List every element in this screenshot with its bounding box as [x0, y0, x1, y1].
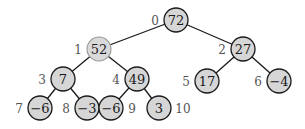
heap-node-5: 175	[182, 69, 219, 93]
heap-node-3: 73	[38, 67, 75, 91]
heap-node-10: 310	[147, 96, 191, 120]
node-value: −3	[77, 101, 96, 116]
node-index-label: 6	[254, 75, 262, 89]
heap-diagram: 72052127273494175−46−67−38−69310	[0, 0, 305, 129]
node-value: 7	[59, 72, 67, 87]
node-value: 72	[168, 13, 185, 28]
node-index-label: 0	[151, 14, 159, 28]
heap-node-4: 494	[112, 67, 149, 91]
node-value: −6	[101, 101, 120, 116]
node-value: 17	[199, 74, 216, 89]
node-value: −4	[269, 74, 288, 89]
edges-layer	[40, 20, 279, 108]
node-index-label: 9	[128, 102, 136, 116]
heap-node-6: −46	[254, 69, 291, 93]
node-index-label: 5	[182, 75, 190, 89]
nodes-layer: 72052127273494175−46−67−38−69310	[15, 8, 291, 120]
node-value: 27	[235, 42, 252, 57]
node-index-label: 2	[218, 43, 226, 57]
node-value: 3	[155, 101, 163, 116]
heap-node-7: −67	[15, 96, 52, 120]
node-index-label: 4	[112, 73, 120, 87]
node-index-label: 3	[38, 73, 46, 87]
heap-node-0: 720	[151, 8, 188, 32]
node-value: −6	[30, 101, 49, 116]
heap-node-9: −69	[99, 96, 136, 120]
heap-tree-svg: 72052127273494175−46−67−38−69310	[0, 0, 305, 129]
node-value: 52	[91, 42, 108, 57]
node-index-label: 8	[62, 102, 70, 116]
node-index-label: 10	[175, 102, 190, 116]
node-index-label: 7	[15, 102, 23, 116]
node-value: 49	[129, 72, 146, 87]
heap-node-1: 521	[74, 37, 111, 61]
node-index-label: 1	[74, 43, 82, 57]
heap-node-8: −38	[62, 96, 99, 120]
